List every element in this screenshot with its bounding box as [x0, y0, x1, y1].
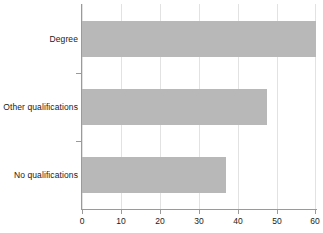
- x-axis-label-40: 40: [233, 217, 242, 226]
- x-axis-tick-0: [82, 210, 83, 214]
- x-axis-tick-30: [199, 210, 200, 214]
- x-axis-tick-50: [277, 210, 278, 214]
- bar-other-qualifications: [82, 89, 267, 125]
- x-axis-tick-60: [315, 210, 316, 214]
- x-axis-label-30: 30: [194, 217, 203, 226]
- category-label-other-qualifications: Other qualifications: [3, 103, 78, 112]
- category-label-degree: Degree: [50, 35, 78, 44]
- y-axis-tick-1: [76, 73, 82, 74]
- bar-degree: [82, 21, 316, 57]
- x-axis-label-0: 0: [80, 217, 85, 226]
- bar-chart: Degree Other qualifications No qualifica…: [0, 0, 323, 233]
- x-axis-label-20: 20: [155, 217, 164, 226]
- x-axis-tick-20: [160, 210, 161, 214]
- y-axis-line: [81, 4, 82, 210]
- x-axis-tick-40: [238, 210, 239, 214]
- bar-no-qualifications: [82, 157, 226, 193]
- x-axis-label-60: 60: [310, 217, 319, 226]
- plot-area: [82, 4, 316, 209]
- category-label-no-qualifications: No qualifications: [14, 171, 78, 180]
- x-axis-label-50: 50: [272, 217, 281, 226]
- x-axis-label-10: 10: [116, 217, 125, 226]
- y-axis-tick-2: [76, 141, 82, 142]
- x-axis-tick-10: [121, 210, 122, 214]
